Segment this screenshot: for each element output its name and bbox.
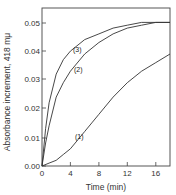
y-axis-title: Absorbance increment, 418 mμ xyxy=(2,33,12,151)
x-tick-label: 8 xyxy=(97,169,102,178)
x-axis xyxy=(70,162,155,166)
y-tick-label: 0.03 xyxy=(24,75,40,84)
y-tick-label: 0.01 xyxy=(24,134,40,143)
x-tick-label: 4 xyxy=(68,169,73,178)
chart: 0.00 0.01 0.02 0.03 0.04 0.05 0 4 8 12 1… xyxy=(0,0,176,195)
y-tick-label: 0.02 xyxy=(24,104,40,113)
curve-2 xyxy=(42,22,170,166)
curve-1 xyxy=(42,54,170,166)
x-tick-label: 12 xyxy=(123,169,132,178)
y-tick-label: 0.05 xyxy=(24,19,40,28)
curve-label-2: (2) xyxy=(74,66,83,74)
y-tick-label: 0.00 xyxy=(24,162,40,171)
curve-label-1: (1) xyxy=(75,133,84,141)
curve-label-3: (3) xyxy=(73,46,82,54)
x-axis-title: Time (min) xyxy=(86,182,126,192)
x-tick-label: 0 xyxy=(40,169,45,178)
y-tick-label: 0.04 xyxy=(24,47,40,56)
x-tick-label: 16 xyxy=(151,169,160,178)
curve-3 xyxy=(42,22,170,166)
